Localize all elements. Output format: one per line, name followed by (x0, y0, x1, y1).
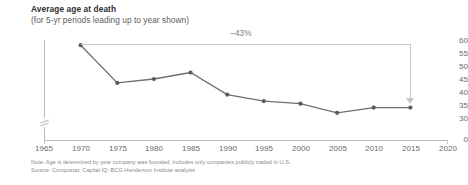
chart-container: Average age at death (for 5-yr periods l… (0, 0, 468, 185)
annotation-horizontal-line (81, 44, 411, 45)
data-point-2005 (335, 111, 339, 115)
data-point-markers (79, 43, 413, 115)
annotation-vertical-line (410, 44, 411, 98)
data-point-1975 (115, 81, 119, 85)
data-point-1980 (152, 77, 156, 81)
plot-area: 60 55 50 45 40 35 30 0 1965 1970 1975 19… (0, 0, 468, 185)
annotation-arrow-down-icon (406, 98, 414, 104)
data-point-2010 (372, 106, 376, 110)
chart-note: Note: Age is determined by year company … (31, 159, 290, 165)
chart-source: Source: Compustat; Capital IQ; BCG Hende… (31, 167, 195, 173)
data-point-1995 (262, 99, 266, 103)
annotation-label-decline: –43% (228, 29, 255, 38)
data-line-path (81, 45, 411, 113)
data-point-1990 (225, 93, 229, 97)
data-point-1985 (188, 70, 192, 74)
data-point-2000 (298, 102, 302, 106)
data-point-2015 (408, 106, 412, 110)
data-series-layer (0, 0, 468, 185)
